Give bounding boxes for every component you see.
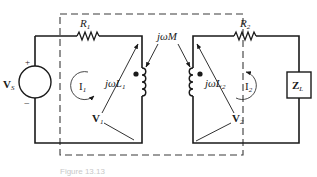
circuit-diagram: + − VS jωL1 jωL2 ZL R1 R2 jωM I1 <box>0 0 317 177</box>
r2-resistor-icon <box>234 32 256 40</box>
primary-loop-wires <box>35 36 142 143</box>
source-minus-sign: − <box>24 98 30 109</box>
mutual-arrow-to-l2-icon <box>178 44 190 67</box>
source-label: VS <box>3 78 15 92</box>
i2-label: I2 <box>245 80 253 94</box>
l1-inductor-icon <box>142 68 146 96</box>
source-plus-sign: + <box>25 57 30 67</box>
r1-resistor-icon <box>77 32 99 40</box>
v2-upper-arrow-icon <box>197 44 234 113</box>
voltage-source-icon <box>19 66 51 98</box>
mutual-arrow-to-l1-icon <box>146 44 158 67</box>
v2-lower-line <box>196 123 231 141</box>
l1-dot-marker <box>133 71 138 76</box>
v1-lower-line <box>104 123 134 140</box>
i1-label: I1 <box>79 80 86 94</box>
mutual-inductance-label: jωM <box>155 30 178 42</box>
l2-dot-marker <box>197 71 202 76</box>
figure-caption: Figure 13.13 <box>60 167 105 176</box>
l2-label: jωL2 <box>203 77 226 91</box>
v1-label: V1 <box>92 112 103 126</box>
v2-label: V2 <box>232 112 244 126</box>
l2-inductor-icon <box>189 68 193 96</box>
r1-label: R1 <box>79 17 90 31</box>
r2-label: R2 <box>239 17 251 31</box>
